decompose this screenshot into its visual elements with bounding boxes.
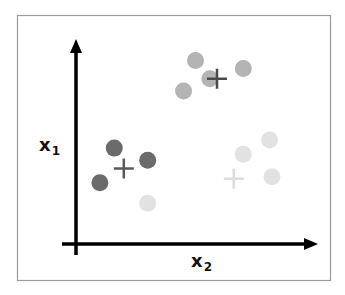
kmeans-figure: x1 x2	[0, 0, 345, 295]
figure-frame	[18, 16, 331, 281]
data-point-light-1	[261, 131, 278, 148]
y-axis-label-subscript: 1	[52, 144, 60, 158]
data-point-dark-2	[139, 152, 156, 169]
data-point-medium-1	[187, 52, 204, 69]
data-point-light-4	[139, 195, 156, 212]
data-point-light-2	[235, 146, 252, 163]
data-point-dark-3	[91, 174, 108, 191]
data-point-dark-1	[106, 140, 123, 157]
data-point-medium-4	[175, 83, 192, 100]
data-point-light-3	[263, 168, 280, 185]
x-axis-label-subscript: 2	[204, 260, 212, 274]
data-point-medium-2	[235, 60, 252, 77]
